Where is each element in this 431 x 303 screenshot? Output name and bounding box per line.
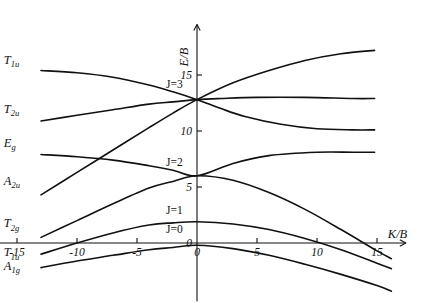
x-tick-label: 10 [311,246,323,258]
curve-t_1u [41,71,375,130]
energy-level-correlation-diagram: -15-10-5051015051015K/BE/BT1uT2uEgA2uT2g… [0,0,431,303]
y-tick-label: 5 [186,181,192,193]
y-tick-label: 0 [186,237,192,249]
j-level-label: J=0 [166,223,183,235]
j-level-label: J=2 [166,156,183,168]
term-label-a_2u: A2u [3,174,20,190]
curve-group [41,50,391,291]
term-label-e_g: Eg [3,136,16,152]
y-axis [194,25,200,302]
j-level-label: J=3 [166,78,183,90]
curve-t_2u [41,97,375,121]
term-label-t_2u: T2u [4,102,19,118]
y-tick-label: 10 [181,125,193,137]
x-tick-label: -10 [69,246,85,258]
x-tick-label: 0 [194,246,200,258]
curve-a_1g [41,245,391,291]
j-level-label: J=1 [166,204,183,216]
term-label-t_2g: T2g [4,216,19,232]
x-axis-title: K/B [387,227,408,241]
plot-canvas: -15-10-5051015051015K/BE/BT1uT2uEgA2uT2g… [0,0,431,303]
term-label-t_1u: T1u [4,53,19,69]
y-axis-title: E/B [177,47,191,67]
x-tick-group: -15-10-5051015 [9,238,383,258]
